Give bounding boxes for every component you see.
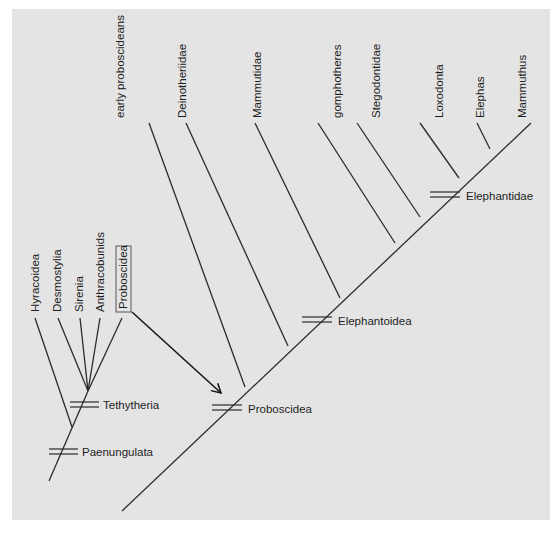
branch-elephas (477, 123, 490, 149)
branch-anthracobunids (88, 318, 100, 391)
clade-marker-elephantidae: Elephantidae (430, 190, 533, 202)
clade-label-paenungulata: Paenungulata (82, 446, 154, 458)
taxon-label-loxodonta: Loxodonta (433, 64, 445, 118)
taxon-label-elephas: Elephas (474, 76, 486, 118)
clade-label-elephantidae: Elephantidae (466, 190, 533, 202)
taxon-label-early-proboscideans: early proboscideans (114, 15, 126, 118)
branch-proboscidea-left (88, 318, 122, 391)
taxon-label-hyracoidea: Hyracoidea (29, 253, 41, 312)
taxon-label-proboscidea-boxed: Proboscidea (117, 244, 129, 309)
branch-hyracoidea (35, 318, 72, 427)
branch-gomphotheres (318, 123, 395, 243)
branch-deinotheriidae (186, 123, 288, 346)
taxon-label-sirenia: Sirenia (73, 276, 85, 312)
taxon-label-anthracobunids: Anthracobunids (94, 232, 106, 312)
branch-early-proboscideans (149, 123, 245, 387)
left-tree: Hyracoidea Desmostylia Sirenia Anthracob… (29, 232, 160, 481)
taxon-label-deinotheriidae: Deinotheriidae (176, 44, 188, 118)
left-stem (49, 391, 88, 481)
branch-loxodonta (420, 123, 459, 178)
clade-label-elephantoidea: Elephantoidea (338, 315, 412, 327)
taxon-label-mammuthus: Mammuthus (516, 54, 528, 118)
clade-marker-paenungulata: Paenungulata (49, 446, 154, 458)
clade-marker-proboscidea: Proboscidea (212, 403, 313, 415)
taxon-label-desmostylia: Desmostylia (51, 249, 63, 312)
taxon-label-mammutidae: Mammutidae (251, 52, 263, 118)
right-tree: early proboscideans Deinotheriidae Mammu… (114, 15, 533, 511)
arrow-icon (132, 312, 221, 393)
taxon-label-gomphotheres: gomphotheres (331, 44, 343, 118)
branch-mammutidae (255, 123, 340, 298)
cladogram: Hyracoidea Desmostylia Sirenia Anthracob… (0, 0, 556, 533)
branch-stegodontidae (357, 123, 420, 217)
clade-label-proboscidea: Proboscidea (248, 403, 313, 415)
clade-label-tethytheria: Tethytheria (103, 399, 160, 411)
taxon-label-stegodontidae: Stegodontidae (370, 44, 382, 118)
